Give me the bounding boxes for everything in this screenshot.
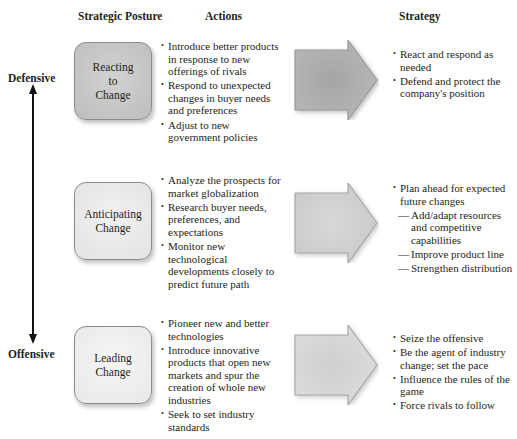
strategy-item: React and respond as needed — [393, 48, 517, 73]
strategy-item: Seize the offensive — [393, 332, 517, 345]
strategy-list-leading: Seize the offensive Be the agent of indu… — [393, 332, 517, 414]
axis-label-offensive: Offensive — [8, 348, 55, 360]
strategy-item: Defend and protect the company's positio… — [393, 75, 517, 100]
posture-label-line: to — [93, 74, 134, 88]
strategy-list-reacting: React and respond as needed Defend and p… — [393, 48, 517, 101]
strategy-item: Force rivals to follow — [393, 399, 517, 412]
action-item: Seek to set industry standards — [161, 408, 281, 433]
action-item: Research buyer needs, preferences, and e… — [161, 201, 281, 239]
action-item: Pioneer new and better technologies — [161, 317, 281, 342]
posture-label-line: Change — [94, 365, 132, 379]
strategy-item: Plan ahead for expected future changes — [393, 182, 517, 207]
header-strategic-posture: Strategic Posture — [78, 10, 162, 22]
axis-label-defensive: Defensive — [8, 72, 55, 84]
strategy-subitem: Strengthen distribution — [393, 262, 517, 275]
posture-label-line: Reacting — [93, 60, 134, 74]
strategy-item: Influence the rules of the game — [393, 373, 517, 398]
double-headed-arrow-icon — [27, 84, 39, 344]
action-item: Introduce better products in response to… — [161, 40, 281, 78]
action-item: Analyze the prospects for market globali… — [161, 174, 281, 199]
posture-label-line: Leading — [94, 351, 132, 365]
header-strategy: Strategy — [399, 10, 441, 22]
actions-list-reacting: Introduce better products in response to… — [161, 40, 281, 145]
strategy-list-anticipating: Plan ahead for expected future changes A… — [393, 182, 517, 276]
posture-label-line: Change — [93, 88, 134, 102]
action-item: Adjust to new government policies — [161, 119, 281, 144]
header-actions: Actions — [205, 10, 242, 22]
strategy-subitem: Add/adapt resources and competitive capa… — [393, 209, 517, 247]
posture-box-anticipating: Anticipating Change — [74, 182, 152, 260]
actions-list-anticipating: Analyze the prospects for market globali… — [161, 174, 281, 292]
right-arrow-icon — [293, 325, 379, 405]
action-item: Respond to unexpected changes in buyer n… — [161, 79, 281, 117]
strategy-item: Be the agent of industry change; set the… — [393, 346, 517, 371]
action-item: Monitor new technological developments c… — [161, 240, 281, 290]
action-item: Introduce innovative products that open … — [161, 344, 281, 407]
posture-label-line: Anticipating — [84, 207, 142, 221]
right-arrow-icon — [293, 40, 379, 120]
right-arrow-icon — [293, 183, 379, 263]
posture-box-reacting: Reacting to Change — [74, 42, 152, 120]
actions-list-leading: Pioneer new and better technologies Intr… — [161, 317, 281, 435]
strategy-subitem: Improve product line — [393, 248, 517, 261]
posture-label-line: Change — [84, 221, 142, 235]
posture-box-leading: Leading Change — [74, 326, 152, 404]
